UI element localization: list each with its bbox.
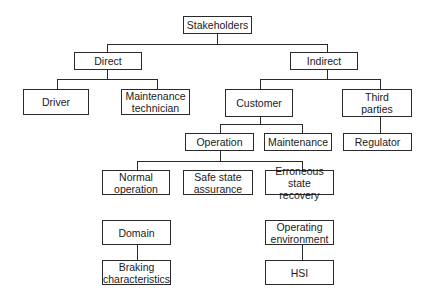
node-operating-environment: Operating environment: [265, 220, 334, 245]
connector: [107, 44, 108, 52]
node-maintenance: Maintenance: [264, 133, 332, 151]
connector: [137, 161, 303, 162]
connector: [157, 79, 158, 89]
connector: [57, 79, 158, 80]
node-hsi: HSI: [265, 260, 334, 285]
connector: [220, 151, 221, 161]
node-maintenance-technician: Maintenance technician: [121, 89, 190, 115]
connector: [57, 79, 58, 89]
node-third-parties: Third parties: [342, 89, 412, 117]
connector: [302, 245, 303, 260]
connector: [327, 44, 328, 52]
connector: [137, 161, 138, 170]
connector: [260, 79, 381, 80]
connector: [107, 70, 108, 79]
node-normal-operation: Normal operation: [102, 170, 170, 195]
connector: [217, 33, 218, 44]
connector: [302, 124, 303, 133]
stakeholder-hierarchy-diagram: Stakeholders Direct Indirect Driver Main…: [0, 0, 433, 300]
connector: [220, 124, 221, 133]
node-operation: Operation: [185, 133, 254, 151]
connector: [107, 44, 328, 45]
node-braking-characteristics: Braking characteristics: [102, 260, 171, 285]
node-driver: Driver: [23, 89, 89, 115]
connector: [380, 117, 381, 133]
node-customer: Customer: [225, 89, 293, 117]
connector: [220, 124, 303, 125]
node-indirect: Indirect: [290, 52, 358, 70]
node-domain: Domain: [102, 220, 171, 245]
node-safe-state-assurance: Safe state assurance: [183, 170, 253, 195]
node-direct: Direct: [74, 52, 142, 70]
connector: [327, 70, 328, 79]
connector: [380, 79, 381, 89]
connector: [260, 117, 261, 124]
node-regulator: Regulator: [343, 133, 412, 151]
node-erroneous-state-recovery: Erroneous state recovery: [265, 170, 334, 195]
node-stakeholders: Stakeholders: [183, 16, 252, 34]
connector: [137, 245, 138, 260]
connector: [260, 79, 261, 89]
